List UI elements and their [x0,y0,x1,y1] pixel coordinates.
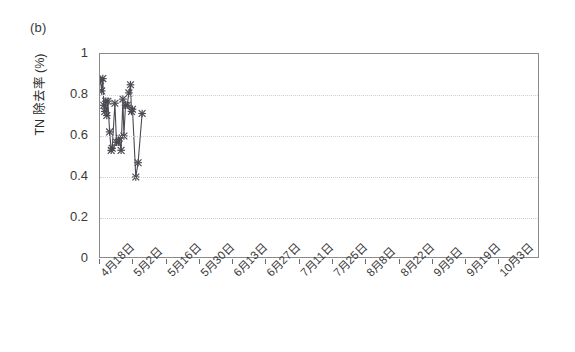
plot-area [99,53,539,258]
figure-panel: (b) TN 除去率 (%) 00.20.40.60.81 4月18日5月2日5… [0,0,575,352]
y-tick-label: 0.4 [62,169,88,182]
gridline [100,177,538,178]
x-tick-mark [99,259,100,264]
y-tick-label: 1 [62,46,88,59]
gridline [100,95,538,96]
x-tick-mark [299,259,300,264]
data-point-marker [134,159,142,167]
line-series-svg [100,54,540,259]
data-point-marker [104,97,112,105]
y-axis-tick-labels: 00.20.40.60.81 [62,0,88,352]
x-tick-mark [132,259,133,264]
x-tick-mark [432,259,433,264]
y-tick-label: 0.2 [62,210,88,223]
data-point-marker [129,106,137,114]
x-tick-mark [365,259,366,264]
gridline [100,136,538,137]
x-tick-mark [498,259,499,264]
y-tick-label: 0.8 [62,87,88,100]
gridline [100,218,538,219]
data-point-marker [117,147,125,155]
x-tick-mark [465,259,466,264]
x-tick-mark [166,259,167,264]
x-tick-mark [332,259,333,264]
data-point-marker [106,128,114,136]
data-point-marker [138,110,146,118]
y-tick-label: 0 [62,251,88,264]
data-point-marker [127,81,135,89]
data-point-marker [123,102,131,110]
y-axis-title: TN 除去率 (%) [29,0,48,195]
x-tick-mark [199,259,200,264]
data-point-marker [111,99,119,107]
y-tick-label: 0.6 [62,128,88,141]
x-tick-mark [399,259,400,264]
data-point-marker [103,112,111,120]
x-tick-mark [232,259,233,264]
x-tick-mark [265,259,266,264]
